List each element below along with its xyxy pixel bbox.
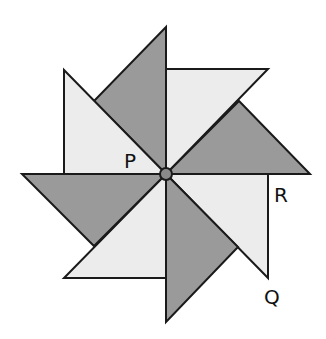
label-p: P [124, 149, 136, 173]
pinwheel-diagram: P R Q [0, 0, 326, 339]
label-r: R [274, 183, 288, 207]
pinwheel-center-hub [160, 168, 172, 180]
label-q: Q [264, 285, 280, 309]
